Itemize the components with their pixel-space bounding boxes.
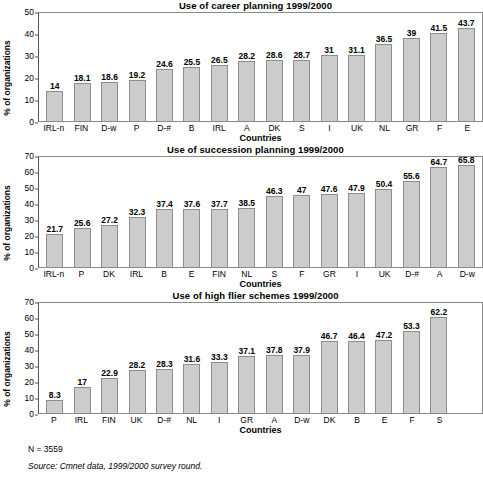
y-tick-label: 0: [29, 118, 34, 127]
x-tick-label: GR: [233, 415, 261, 425]
bar-slot: 22.9: [96, 303, 123, 413]
chart-body: % of organizations010203040501418.118.61…: [0, 12, 483, 144]
x-tick-label: F: [288, 269, 316, 279]
plot-wrap: 21.725.627.232.337.437.637.738.546.34747…: [38, 156, 483, 290]
bar[interactable]: 62.2: [430, 317, 447, 413]
bar-value-label: 21.7: [46, 225, 63, 234]
y-tick-label: 10: [25, 394, 34, 403]
y-axis-label-text: % of organizations: [2, 40, 12, 116]
bar-value-label: 47: [297, 186, 306, 195]
bar-slot: 53.3: [398, 303, 425, 413]
bar-value-label: 53.3: [403, 322, 420, 331]
bar-slot: 26.5: [206, 13, 233, 121]
bar-slot: 36.5: [370, 13, 397, 121]
bar[interactable]: 31.6: [183, 364, 200, 413]
bar-slot: 50.4: [370, 157, 397, 267]
bar[interactable]: 43.7: [458, 28, 475, 121]
x-tick-label: S: [288, 123, 316, 133]
bar[interactable]: 26.5: [211, 65, 228, 121]
bar-value-label: 8.3: [49, 391, 61, 400]
y-tick-label: 50: [25, 184, 34, 193]
bar[interactable]: 8.3: [46, 400, 63, 413]
bar[interactable]: 39: [403, 38, 420, 121]
x-tick-label: IRL: [205, 123, 233, 133]
bar[interactable]: 25.5: [183, 67, 200, 121]
bar[interactable]: 37.8: [266, 355, 283, 413]
bar-value-label: 46.3: [266, 187, 283, 196]
bar[interactable]: 17: [74, 387, 91, 413]
x-tick-label: E: [371, 415, 399, 425]
bar[interactable]: 28.2: [129, 370, 146, 414]
bar[interactable]: 46.3: [266, 196, 283, 267]
bar[interactable]: 47.6: [321, 194, 338, 267]
bar[interactable]: 47: [293, 195, 310, 268]
bar[interactable]: 21.7: [46, 234, 63, 267]
bar[interactable]: 28.3: [156, 369, 173, 413]
bar[interactable]: 27.2: [101, 225, 118, 267]
bars-group: 8.31722.928.228.331.633.337.137.837.946.…: [39, 303, 482, 413]
bars-group: 21.725.627.232.337.437.637.738.546.34747…: [39, 157, 482, 267]
bar[interactable]: 38.5: [238, 208, 255, 267]
bar[interactable]: 24.6: [156, 69, 173, 121]
chart-title: Use of career planning 1999/2000: [0, 0, 483, 12]
bar-slot: 37.4: [151, 157, 178, 267]
y-tick-label: 70: [25, 152, 34, 161]
bar[interactable]: 31: [321, 55, 338, 121]
bar[interactable]: 46.7: [321, 341, 338, 413]
bar-value-label: 28.2: [129, 361, 146, 370]
x-tick-label: D-w: [453, 269, 481, 279]
bar[interactable]: 64.7: [430, 167, 447, 267]
bar[interactable]: 25.6: [74, 228, 91, 267]
bar[interactable]: 37.4: [156, 209, 173, 267]
bar[interactable]: 50.4: [375, 189, 392, 267]
x-tick-label: P: [40, 415, 68, 425]
bar[interactable]: 14: [46, 91, 63, 121]
bar[interactable]: 28.2: [238, 61, 255, 121]
chart-body: % of organizations01020304050607021.725.…: [0, 156, 483, 290]
x-tick-label: B: [343, 415, 371, 425]
bar[interactable]: 33.3: [211, 362, 228, 413]
bar[interactable]: 18.6: [101, 82, 118, 121]
x-tick-label: I: [316, 123, 344, 133]
x-tick-label: I: [205, 415, 233, 425]
plot-area: 8.31722.928.228.331.633.337.137.837.946.…: [38, 302, 483, 414]
bar-value-label: 28.7: [293, 51, 310, 60]
chart-2: Use of succession planning 1999/2000% of…: [0, 144, 483, 290]
bar[interactable]: 37.1: [238, 356, 255, 413]
bar[interactable]: 32.3: [129, 217, 146, 267]
bar[interactable]: 37.7: [211, 209, 228, 267]
bar-value-label: 31.1: [348, 46, 365, 55]
bar-slot: 39: [398, 13, 425, 121]
bar[interactable]: 65.8: [458, 165, 475, 267]
bar[interactable]: 18.1: [74, 83, 91, 121]
chart-1: Use of career planning 1999/2000% of org…: [0, 0, 483, 144]
bar[interactable]: 22.9: [101, 378, 118, 413]
bar-slot: 28.7: [288, 13, 315, 121]
bar[interactable]: 41.5: [430, 33, 447, 121]
bar-slot: 37.8: [261, 303, 288, 413]
bar[interactable]: 46.4: [348, 341, 365, 413]
x-tick-label: IRL: [123, 269, 151, 279]
bar-value-label: 25.5: [184, 58, 201, 67]
bar[interactable]: 28.7: [293, 60, 310, 121]
bar-value-label: 65.8: [458, 156, 475, 165]
bar[interactable]: 53.3: [403, 331, 420, 413]
bar[interactable]: 31.1: [348, 55, 365, 121]
bar[interactable]: 28.6: [266, 60, 283, 121]
bar-value-label: 37.8: [266, 346, 283, 355]
bar[interactable]: 37.9: [293, 355, 310, 413]
bar[interactable]: 47.9: [348, 193, 365, 267]
bar[interactable]: 37.6: [183, 209, 200, 267]
bar[interactable]: 55.6: [403, 181, 420, 267]
bar-value-label: 28.2: [239, 52, 256, 61]
bar-slot: 28.2: [123, 303, 150, 413]
bar-slot: 28.6: [261, 13, 288, 121]
bar[interactable]: 47.2: [375, 340, 392, 413]
bar[interactable]: 36.5: [375, 44, 392, 121]
bar-value-label: 31: [324, 46, 333, 55]
bar-slot: 41.5: [425, 13, 452, 121]
bar[interactable]: 19.2: [129, 80, 146, 121]
y-tick-label: 10: [25, 96, 34, 105]
figure-page: Use of career planning 1999/2000% of org…: [0, 0, 483, 493]
bar-value-label: 37.9: [293, 346, 310, 355]
